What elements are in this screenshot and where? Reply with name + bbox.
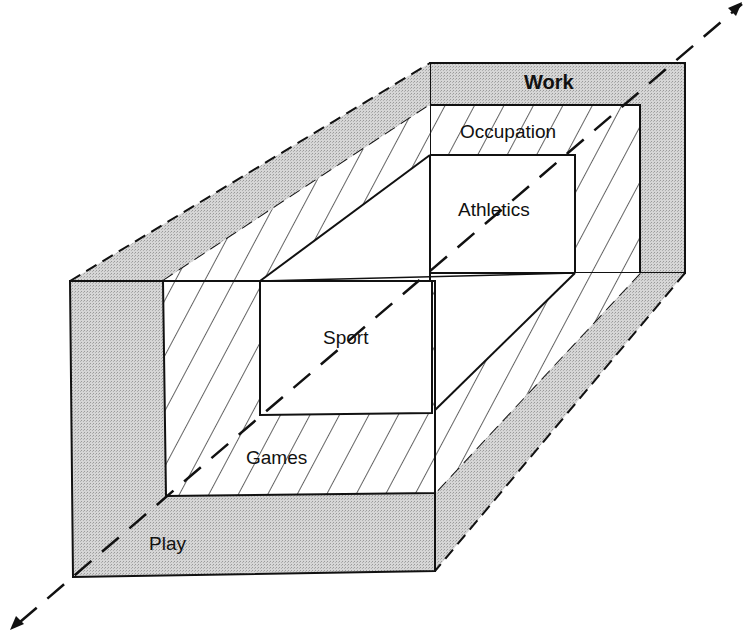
top-face bbox=[70, 63, 430, 281]
label-work: Work bbox=[524, 71, 574, 94]
label-athletics: Athletics bbox=[458, 199, 530, 221]
tunnel-edge bbox=[260, 273, 575, 281]
arrow-head-play-icon bbox=[10, 616, 24, 630]
right-face bbox=[432, 273, 685, 571]
back-face bbox=[430, 63, 685, 273]
label-play: Play bbox=[149, 533, 186, 555]
arrow-head-work-icon bbox=[728, 2, 742, 16]
label-sport: Sport bbox=[323, 327, 368, 349]
label-games: Games bbox=[246, 447, 307, 469]
label-occupation: Occupation bbox=[460, 121, 556, 143]
diagram-canvas bbox=[0, 0, 746, 637]
front-face bbox=[70, 281, 435, 577]
